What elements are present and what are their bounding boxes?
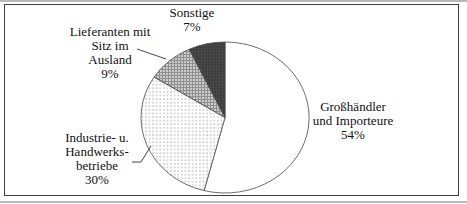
label-grosshaendler-pct: 54% bbox=[283, 128, 423, 142]
label-sonstige-name: Sonstige bbox=[132, 6, 252, 20]
label-industrie: Industrie- u. Handwerks- betriebe 30% bbox=[37, 131, 157, 187]
label-lieferanten-line1: Lieferanten mit bbox=[50, 25, 170, 39]
label-lieferanten-line3: Ausland bbox=[50, 53, 170, 67]
label-industrie-line2: Handwerks- bbox=[37, 145, 157, 159]
label-lieferanten-line2: Sitz im bbox=[50, 39, 170, 53]
label-industrie-pct: 30% bbox=[37, 173, 157, 187]
label-industrie-line1: Industrie- u. bbox=[37, 131, 157, 145]
label-grosshaendler-line1: Großhändler bbox=[283, 100, 423, 114]
label-grosshaendler-line2: und Importeure bbox=[283, 114, 423, 128]
label-industrie-line3: betriebe bbox=[37, 159, 157, 173]
label-lieferanten: Lieferanten mit Sitz im Ausland 9% bbox=[50, 25, 170, 81]
label-grosshaendler: Großhändler und Importeure 54% bbox=[283, 100, 423, 142]
pie-chart-figure: Sonstige 7% Lieferanten mit Sitz im Ausl… bbox=[0, 0, 467, 204]
label-lieferanten-pct: 9% bbox=[50, 67, 170, 81]
